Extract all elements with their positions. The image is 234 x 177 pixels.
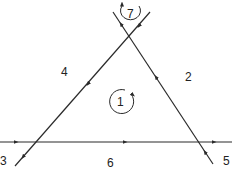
branch-5-label: 5 — [223, 155, 230, 167]
loop-7-label: 7 — [127, 8, 134, 20]
right-diagonal-line — [113, 12, 213, 164]
branch-6-label: 6 — [107, 157, 114, 169]
branch-4-label: 4 — [61, 66, 68, 78]
branch-2-label: 2 — [185, 71, 192, 83]
network-diagram: 7 1 4 2 3 6 5 — [0, 0, 234, 177]
left-diagonal-line — [15, 12, 150, 166]
loop-1-label: 1 — [117, 96, 124, 108]
branch-3-label: 3 — [0, 155, 7, 167]
diagram-lines — [0, 0, 234, 177]
loop-1-arrowhead-icon — [128, 91, 133, 95]
